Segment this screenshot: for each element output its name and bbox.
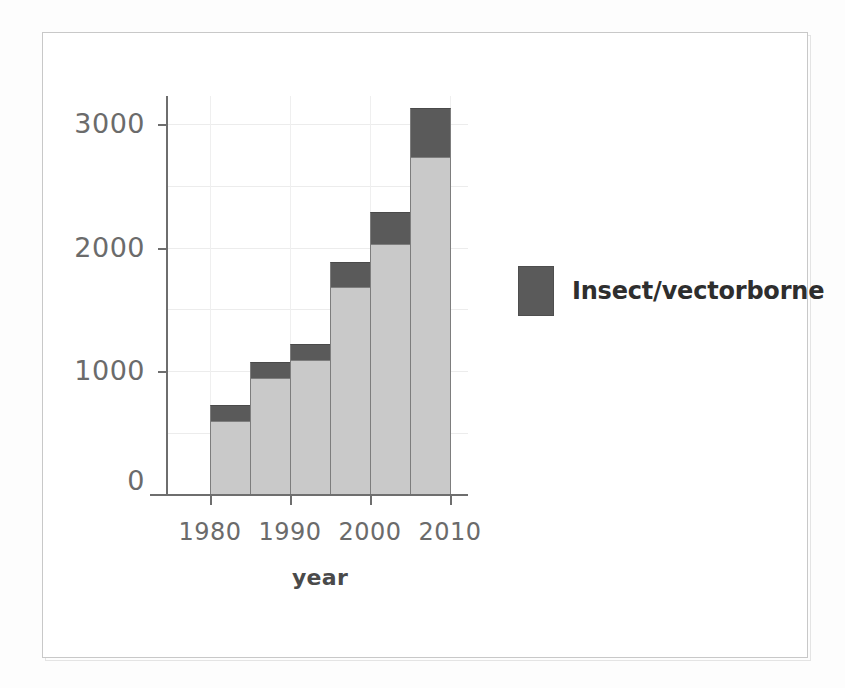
bar-segment-insect-vectorborne [330, 262, 371, 288]
legend-label-insect-vectorborne: Insect/vectorborne [572, 277, 824, 305]
x-tick-label-2010: 2010 [405, 520, 495, 544]
bar-segment-insect-vectorborne [410, 108, 451, 158]
bar-group-2000[interactable] [370, 212, 411, 495]
bar-segment-other [250, 378, 291, 495]
x-tick-mark-1980 [210, 496, 212, 505]
bar-group-1980[interactable] [210, 405, 251, 495]
x-tick-label-1980: 1980 [165, 520, 255, 544]
bar-segment-other [330, 287, 371, 495]
legend-swatch-insect-vectorborne [518, 266, 554, 316]
bar-segment-other [210, 421, 251, 495]
y-tick-mark-3000 [158, 124, 168, 126]
x-tick-label-2000: 2000 [325, 520, 415, 544]
bar-segment-insect-vectorborne [250, 362, 291, 379]
x-tick-label-1990: 1990 [245, 520, 335, 544]
y-tick-mark-2000 [158, 248, 168, 250]
y-tick-label-0: 0 [55, 467, 145, 494]
figure-canvas: 3000 2000 1000 0 1980 1990 2000 2010 yea… [0, 0, 845, 688]
y-axis-line [166, 96, 168, 496]
y-tick-label-2000: 2000 [55, 234, 145, 261]
y-tick-label-3000: 3000 [55, 110, 145, 137]
x-tick-mark-1990 [290, 496, 292, 505]
y-tick-mark-1000 [158, 371, 168, 373]
x-axis-title: year [220, 565, 420, 590]
bar-segment-insect-vectorborne [210, 405, 251, 422]
bar-segment-other [290, 360, 331, 495]
bar-group-1995[interactable] [330, 262, 371, 495]
bar-group-2005[interactable] [410, 108, 451, 495]
stacked-bar-chart: 3000 2000 1000 0 1980 1990 2000 2010 yea… [0, 0, 845, 688]
x-tick-mark-2000 [370, 496, 372, 505]
chart-legend: Insect/vectorborne [518, 266, 824, 316]
bar-segment-insect-vectorborne [290, 344, 331, 361]
x-axis-line [150, 494, 468, 496]
bar-segment-other [370, 244, 411, 495]
bar-group-1990[interactable] [290, 344, 331, 495]
bar-segment-other [410, 157, 451, 495]
bar-segment-insect-vectorborne [370, 212, 411, 245]
y-tick-label-1000: 1000 [55, 357, 145, 384]
bar-group-1985[interactable] [250, 362, 291, 495]
x-tick-mark-2010 [450, 496, 452, 505]
